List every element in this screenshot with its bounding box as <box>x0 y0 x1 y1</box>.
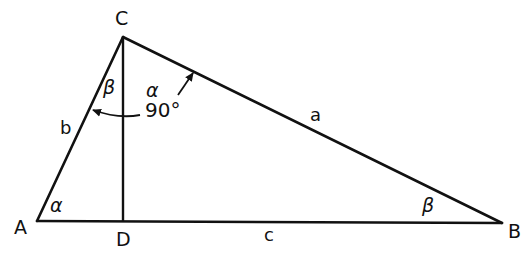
right-angle-arc-arrow-right <box>178 73 193 95</box>
right-angle-arc-arrow-left <box>93 110 140 116</box>
side-label-b: b <box>60 119 71 137</box>
side-a-line <box>123 37 502 223</box>
side-label-a: a <box>310 106 321 124</box>
vertex-label-d: D <box>116 230 131 249</box>
vertex-label-b: B <box>508 222 521 241</box>
triangle-drawing <box>0 0 532 258</box>
angle-label-beta-b: β <box>422 196 434 215</box>
vertex-label-c: C <box>115 9 128 28</box>
vertex-label-a: A <box>14 218 27 237</box>
right-angle-label: 90° <box>145 100 180 120</box>
angle-label-beta-c: β <box>103 78 115 97</box>
angle-label-alpha-a: α <box>50 196 63 215</box>
side-c-line <box>37 221 502 223</box>
triangle-diagram: C A D B b a c α β β α 90° <box>0 0 532 258</box>
side-label-c: c <box>264 226 274 244</box>
